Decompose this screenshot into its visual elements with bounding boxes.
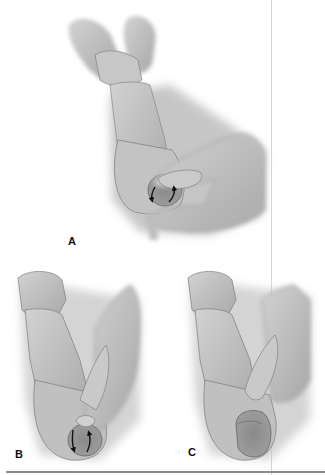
panel-c-illustration xyxy=(188,271,310,460)
bottom-rule-line xyxy=(6,471,325,473)
illustration-canvas xyxy=(0,0,325,475)
panel-a-illustration xyxy=(70,17,265,240)
panel-label-a: A xyxy=(68,235,76,247)
panel-b-illustration xyxy=(18,271,140,460)
panel-label-c: C xyxy=(188,446,196,458)
panel-label-b: B xyxy=(15,448,23,460)
